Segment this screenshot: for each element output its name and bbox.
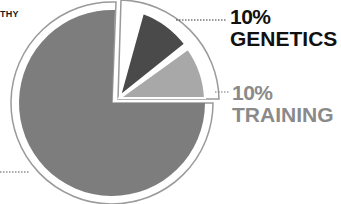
genetics-percent: 10%: [230, 6, 337, 27]
training-name: TRAINING: [232, 104, 334, 125]
genetics-label: 10% GENETICS: [230, 6, 337, 49]
training-percent: 10%: [232, 82, 334, 103]
cropped-category-label: THY: [0, 10, 19, 19]
training-label: 10% TRAINING: [232, 82, 334, 125]
main-slice-group: [11, 2, 213, 204]
genetics-name: GENETICS: [230, 28, 337, 49]
